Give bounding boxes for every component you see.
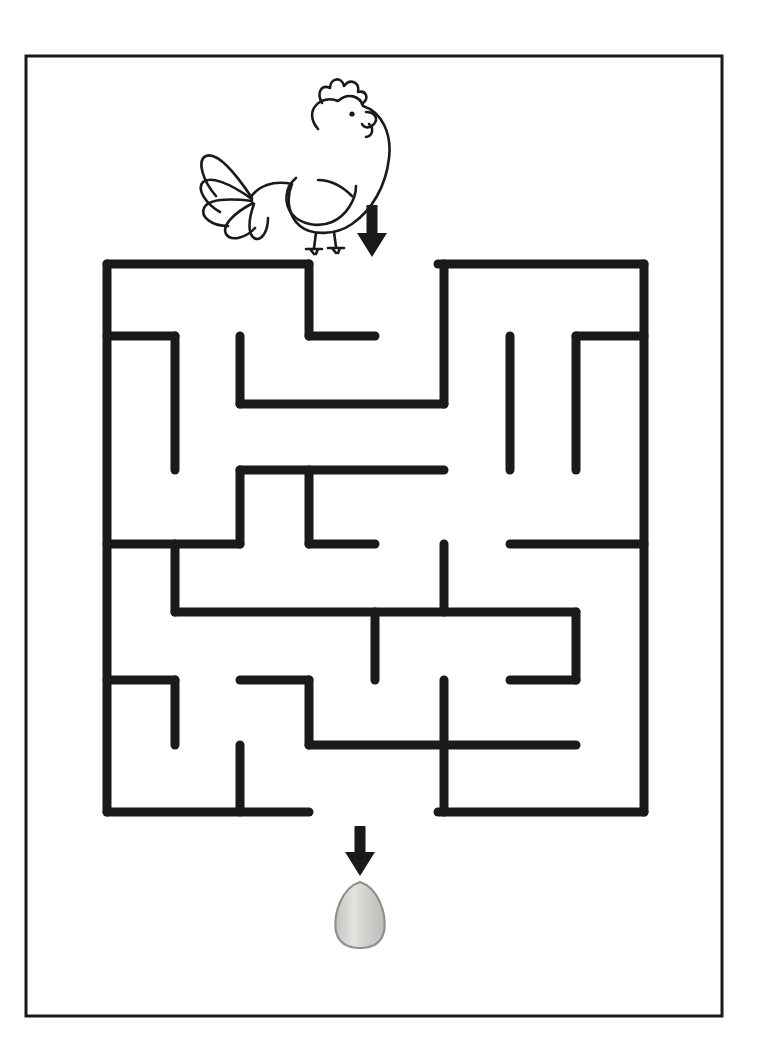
worksheet-page <box>0 0 760 1058</box>
maze-worksheet-canvas <box>0 0 760 1058</box>
